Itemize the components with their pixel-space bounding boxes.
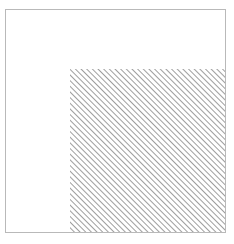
hatched-region [70,69,226,233]
figure-canvas [0,0,234,244]
figure-svg [0,0,234,244]
